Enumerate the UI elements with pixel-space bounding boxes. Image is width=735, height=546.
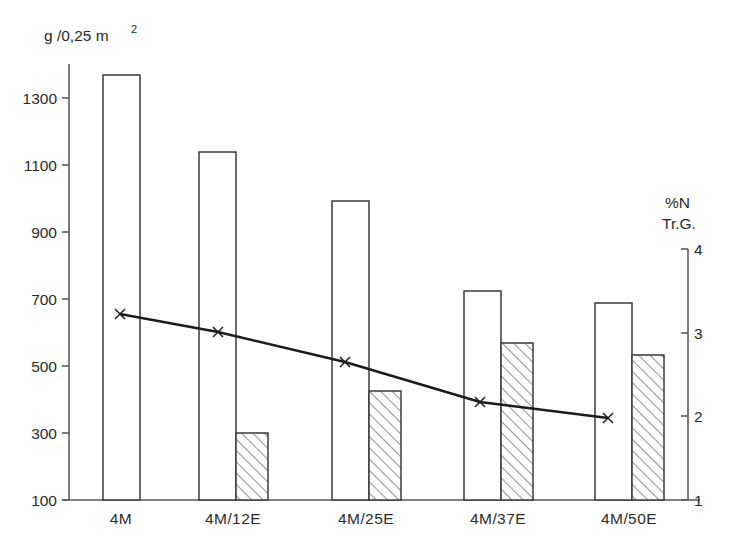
bar-open-4m-37e <box>464 291 501 500</box>
y-axis-title-superscript: 2 <box>131 23 137 35</box>
bar-open-4m-12e <box>199 152 236 500</box>
x-axis-category-labels: 4M 4M/12E 4M/25E 4M/37E 4M/50E <box>110 510 657 527</box>
y-axis-left: 1300 1100 900 700 500 300 100 <box>23 64 69 509</box>
y-tick-label-700: 700 <box>31 291 57 308</box>
bar-open-4m <box>103 75 140 500</box>
bar-group-4m-37e <box>464 291 533 500</box>
x-axis-label-4m: 4M <box>110 510 132 527</box>
bar-group-4m-25e <box>332 201 401 500</box>
y2-axis-title-line1: %N <box>665 194 690 211</box>
y-axis-title-main: g /0,25 m <box>44 27 109 44</box>
y2-axis-title-line2: Tr.G. <box>662 215 696 232</box>
bar-hatched-4m-12e <box>236 433 268 500</box>
x-axis-label-4m-37e: 4M/37E <box>470 510 526 527</box>
y-tick-label-1100: 1100 <box>24 157 58 174</box>
y2-axis-title: %N Tr.G. <box>662 194 696 232</box>
chart-container: 1300 1100 900 700 500 300 100 g /0,25 m … <box>0 0 735 546</box>
y2-tick-label-1: 1 <box>694 492 703 509</box>
bar-open-4m-50e <box>595 303 632 500</box>
bar-hatched-4m-25e <box>369 391 401 500</box>
bar-hatched-4m-50e <box>632 355 664 500</box>
x-axis-label-4m-50e: 4M/50E <box>601 510 657 527</box>
y-tick-label-300: 300 <box>31 425 57 442</box>
y-axis-right: 4 3 2 1 <box>681 241 703 509</box>
y2-tick-label-2: 2 <box>694 408 703 425</box>
y-axis-title: g /0,25 m 2 <box>44 23 137 44</box>
x-axis-label-4m-12e: 4M/12E <box>205 510 261 527</box>
bar-hatched-4m-37e <box>501 343 533 500</box>
bar-group-4m-50e <box>595 303 664 500</box>
y-tick-label-500: 500 <box>31 358 57 375</box>
bar-group-4m-12e <box>199 152 268 500</box>
bar-open-4m-25e <box>332 201 369 500</box>
y-tick-label-100: 100 <box>31 492 57 509</box>
chart-svg: 1300 1100 900 700 500 300 100 g /0,25 m … <box>0 0 735 546</box>
y2-tick-label-3: 3 <box>694 325 703 342</box>
y-tick-label-900: 900 <box>31 224 57 241</box>
y-tick-label-1300: 1300 <box>23 90 58 107</box>
y2-tick-label-4: 4 <box>694 241 703 258</box>
bar-group-4m <box>103 75 140 500</box>
x-axis-label-4m-25e: 4M/25E <box>338 510 394 527</box>
